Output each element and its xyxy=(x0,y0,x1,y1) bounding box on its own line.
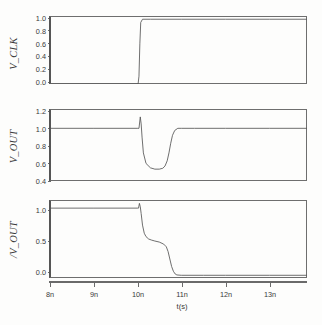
x-tickmark xyxy=(226,283,227,287)
panel-inv-v-out-ytick-0: 0.0 xyxy=(24,268,46,277)
x-tick-label-12n: 12n xyxy=(212,290,240,299)
panel-v-out-ytick-1: 0.6 xyxy=(24,160,46,169)
panel-v-clk-ytick-1: 0.2 xyxy=(24,65,46,74)
x-tick-label-9n: 9n xyxy=(80,290,108,299)
panel-inv-v-out-ytick-1: 0.5 xyxy=(24,237,46,246)
panel-v-out-ytick-4: 1.2 xyxy=(24,107,46,116)
panel-v-out-ytick-2: 0.8 xyxy=(24,142,46,151)
x-tick-label-8n: 8n xyxy=(36,290,64,299)
panel-v-clk-ytick-3: 0.6 xyxy=(24,40,46,49)
x-tickmark xyxy=(94,283,95,287)
x-tick-label-13n: 13n xyxy=(256,290,284,299)
x-tickmark xyxy=(182,283,183,287)
panel-v-clk-ytick-5: 1.0 xyxy=(24,14,46,23)
x-tickmark xyxy=(270,283,271,287)
panel-v-out-ytick-3: 1.0 xyxy=(24,125,46,134)
panel-v-clk-ytick-2: 0.4 xyxy=(24,52,46,61)
x-tick-label-10n: 10n xyxy=(124,290,152,299)
panel-v-clk-ytick-4: 0.8 xyxy=(24,27,46,36)
panel-v-out-ytick-0: 0.4 xyxy=(24,177,46,186)
x-tick-label-11n: 11n xyxy=(168,290,196,299)
x-axis-line xyxy=(49,281,307,283)
waveform-figure: V_CLK 1.0 0.8 0.6 0.4 0.2 0.0 V_OUT 1.2 … xyxy=(0,0,322,325)
panel-v-clk-ylabel: V_CLK xyxy=(8,32,19,76)
x-tickmark xyxy=(138,283,139,287)
x-tickmark xyxy=(50,283,51,287)
x-axis-label: t(s) xyxy=(168,302,196,311)
panel-inv-v-out-ytick-2: 1.0 xyxy=(24,206,46,215)
panel-v-clk-ytick-0: 0.0 xyxy=(24,78,46,87)
panel-inv-v-out-ylabel: /V_OUT xyxy=(8,216,19,264)
panel-v-out-ylabel: V_OUT xyxy=(8,124,19,170)
